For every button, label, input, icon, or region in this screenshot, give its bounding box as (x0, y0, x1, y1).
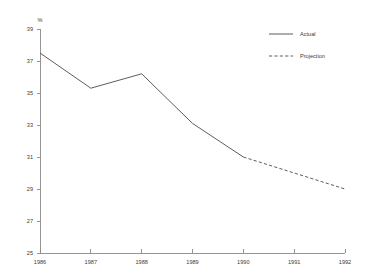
y-tick-label: 35 (27, 90, 33, 96)
y-axis-unit-label: % (38, 17, 43, 23)
x-tick-label: 1988 (135, 259, 147, 265)
series-line-projection (243, 157, 345, 189)
legend-label-actual: Actual (300, 31, 316, 37)
x-tick-label: 1989 (186, 259, 198, 265)
legend-label-projection: Projection (300, 53, 325, 59)
axes (40, 29, 345, 253)
y-tick-label: 33 (27, 122, 33, 128)
x-tick-label: 1991 (288, 259, 300, 265)
x-tick-label: 1992 (339, 259, 351, 265)
y-tick-label: 37 (27, 58, 33, 64)
data-series (40, 53, 345, 189)
y-tick-label: 29 (27, 186, 33, 192)
x-tick-label: 1986 (34, 259, 46, 265)
line-chart: 2527293133353739 19861987198819891990199… (0, 0, 367, 280)
x-axis-ticks: 1986198719881989199019911992 (34, 249, 351, 265)
y-axis-ticks: 2527293133353739 (27, 26, 40, 256)
chart-container: 2527293133353739 19861987198819891990199… (0, 0, 367, 280)
series-line-actual (40, 53, 243, 157)
chart-legend: ActualProjection (269, 31, 325, 59)
y-tick-label: 39 (27, 26, 33, 32)
y-tick-label: 31 (27, 154, 33, 160)
y-tick-label: 27 (27, 218, 33, 224)
x-tick-label: 1987 (85, 259, 97, 265)
y-tick-label: 25 (27, 250, 33, 256)
x-tick-label: 1990 (237, 259, 249, 265)
